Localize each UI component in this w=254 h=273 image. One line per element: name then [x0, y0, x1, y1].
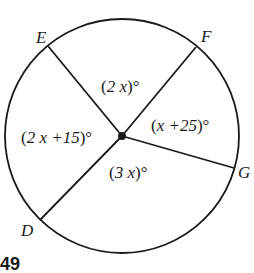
- circle-diagram: E F G D (2 x)° (x +25)° (3 x)° (2 x +15)…: [0, 0, 254, 273]
- problem-number: 49: [0, 254, 20, 273]
- point-label-g: G: [238, 163, 250, 182]
- angle-label-de: (2 x +15)°: [21, 128, 92, 147]
- angle-label-gd: (3 x)°: [109, 163, 147, 182]
- point-label-f: F: [200, 27, 212, 46]
- angle-label-fg: (x +25)°: [151, 116, 209, 135]
- center-point: [118, 132, 126, 140]
- point-label-d: D: [20, 221, 34, 240]
- angle-label-ef: (2 x)°: [101, 77, 139, 96]
- point-label-e: E: [35, 28, 47, 47]
